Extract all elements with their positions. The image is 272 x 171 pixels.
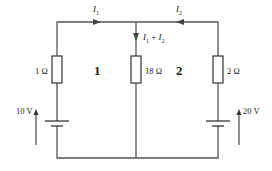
resistor-right	[213, 56, 223, 83]
arrow-left-icon	[176, 19, 184, 25]
voltage-arrow-right-icon	[237, 109, 242, 145]
resistor-middle	[131, 56, 141, 83]
loop-2-label: 2	[176, 64, 183, 77]
bottom-wire	[57, 126, 218, 158]
resistor-left-label: 1 Ω	[35, 67, 48, 76]
top-wire	[57, 22, 218, 56]
battery-left-voltage-label: 10 V	[16, 107, 33, 116]
resistor-left	[52, 56, 62, 83]
resistor-right-label: 2 Ω	[227, 67, 240, 76]
battery-right-voltage-label: 20 V	[243, 107, 260, 116]
current-i2-label: I2	[176, 5, 182, 16]
current-i1-label: I1	[93, 5, 99, 16]
arrow-right-icon	[93, 19, 101, 25]
resistor-middle-label: 18 Ω	[145, 67, 162, 76]
battery-right	[206, 121, 230, 126]
circuit-diagram	[0, 0, 272, 171]
current-sum-label: I1 + I2	[143, 33, 165, 44]
loop-1-label: 1	[94, 64, 101, 77]
battery-left	[45, 121, 69, 126]
arrow-down-icon	[133, 33, 139, 41]
voltage-arrow-left-icon	[34, 109, 39, 145]
